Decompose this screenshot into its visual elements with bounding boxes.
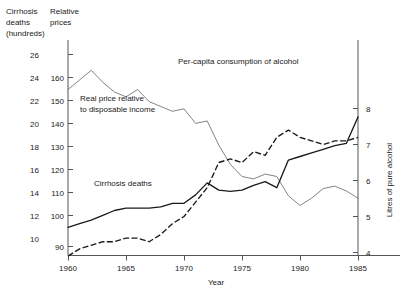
tick-label: 140 bbox=[51, 120, 65, 129]
tick-label: 150 bbox=[51, 97, 65, 106]
tick-label: 16 bbox=[30, 166, 39, 175]
line-chart: Cirrhosis deaths (hundreds) Relative pri… bbox=[0, 0, 420, 288]
tick-label: 100 bbox=[51, 212, 65, 221]
left-outer-axis-header: Cirrhosis deaths (hundreds) bbox=[6, 7, 45, 38]
tick-label: 1965 bbox=[117, 264, 135, 273]
tick-label: 90 bbox=[55, 243, 64, 252]
annotation-price-line1: Real price relative bbox=[80, 94, 145, 103]
axis-header-line: deaths bbox=[6, 18, 30, 27]
tick-label: 10 bbox=[30, 235, 39, 244]
x-axis-ticks bbox=[69, 256, 359, 261]
axis-header-line: prices bbox=[50, 18, 71, 27]
tick-label: 18 bbox=[30, 143, 39, 152]
axis-header-line: Cirrhosis bbox=[6, 7, 38, 16]
tick-label: 130 bbox=[51, 143, 65, 152]
tick-label: 1970 bbox=[175, 264, 193, 273]
right-axis-ticklabels: 8 7 6 5 4 bbox=[366, 105, 371, 258]
tick-label: 8 bbox=[366, 105, 371, 114]
axis-header-line: (hundreds) bbox=[6, 29, 45, 38]
left-outer-axis-ticklabels: 26 24 22 20 18 16 14 12 10 bbox=[30, 51, 39, 244]
annotation-alcohol: Per-capita consumption of alcohol bbox=[178, 57, 299, 66]
x-axis-title: Year bbox=[208, 278, 225, 287]
left-inner-axis-header: Relative prices bbox=[50, 7, 79, 27]
tick-label: 20 bbox=[30, 120, 39, 129]
annotation-price-line2: to disposable income bbox=[80, 105, 156, 114]
tick-label: 110 bbox=[51, 189, 64, 198]
series-alcohol-line bbox=[68, 130, 358, 256]
chart-container: Cirrhosis deaths (hundreds) Relative pri… bbox=[0, 0, 420, 288]
annotation-cirrhosis: Cirrhosis deaths bbox=[94, 179, 152, 188]
annotation-layer: Per-capita consumption of alcohol Real p… bbox=[80, 57, 299, 188]
tick-label: 160 bbox=[51, 74, 65, 83]
tick-label: 1980 bbox=[291, 264, 309, 273]
tick-label: 12 bbox=[30, 212, 39, 221]
tick-label: 1975 bbox=[233, 264, 251, 273]
tick-label: 22 bbox=[30, 97, 39, 106]
tick-label: 1960 bbox=[59, 264, 77, 273]
tick-label: 14 bbox=[30, 189, 39, 198]
tick-label: 24 bbox=[30, 74, 39, 83]
tick-label: 4 bbox=[366, 249, 371, 258]
tick-label: 26 bbox=[30, 51, 39, 60]
tick-label: 7 bbox=[366, 141, 371, 150]
tick-label: 1985 bbox=[349, 264, 367, 273]
tick-label: 5 bbox=[366, 213, 371, 222]
x-axis-ticklabels: 1960 1965 1970 1975 1980 1985 bbox=[59, 264, 367, 273]
left-inner-axis-ticklabels: 160 150 140 130 120 110 100 90 bbox=[51, 74, 65, 252]
left-axis-ticks bbox=[68, 55, 73, 247]
right-axis-ticks bbox=[353, 109, 358, 253]
tick-label: 120 bbox=[51, 166, 65, 175]
axis-header-line: Relative bbox=[50, 7, 79, 16]
tick-label: 6 bbox=[366, 177, 371, 186]
right-axis-title: Litres of pure alcohol bbox=[385, 143, 394, 217]
